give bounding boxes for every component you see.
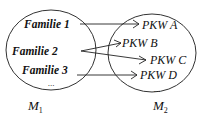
element-familie-1: Familie 1 — [23, 18, 70, 30]
arrow-familie1-pkwa — [80, 20, 139, 28]
element-pkw-a: PKW A — [141, 18, 178, 32]
arrow-familie3-pkwd — [77, 71, 137, 79]
element-pkw-b: PKW B — [121, 36, 158, 50]
element-familie-3: Familie 3 — [21, 64, 68, 76]
element-pkw-d: PKW D — [139, 68, 177, 82]
set-m1-ellipsis: ... — [48, 78, 55, 88]
element-pkw-c: PKW C — [149, 53, 187, 67]
arrow-familie2-pkwb — [81, 40, 121, 51]
arrow-familie2-pkwc — [81, 51, 146, 64]
set-m2-label: M2 — [152, 98, 168, 115]
set-m1-label: M1 — [27, 98, 43, 115]
element-familie-2: Familie 2 — [11, 45, 58, 57]
mapping-diagram: Familie 1 Familie 2 Familie 3 ... PKW A … — [0, 0, 219, 117]
set-m2-ellipsis: ... — [154, 84, 161, 94]
